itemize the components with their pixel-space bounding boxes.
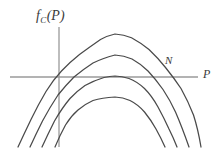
y-axis-label: fC(P) — [36, 9, 65, 25]
plot-background — [0, 0, 218, 158]
y-axis-label-subscript: C — [40, 15, 47, 25]
math-plot-svg — [0, 0, 218, 158]
figure-container: fC(P) N P — [0, 0, 218, 158]
x-axis-label: P — [203, 68, 210, 80]
point-label-n: N — [165, 55, 172, 66]
y-axis-label-argument: (P) — [47, 8, 65, 23]
